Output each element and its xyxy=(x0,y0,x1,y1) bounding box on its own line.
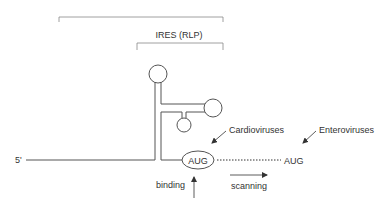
stem-top-right xyxy=(161,82,205,104)
cardioviruses-arrow xyxy=(212,131,226,143)
five-prime-label: 5' xyxy=(15,155,22,165)
outer-bracket xyxy=(59,17,223,22)
ires-bracket xyxy=(137,43,223,50)
stem-small-left xyxy=(161,112,182,160)
ires-diagram: IRES (RLP) 5' AUG AUG scanning binding C… xyxy=(0,0,392,205)
aug-start-label: AUG xyxy=(188,156,208,166)
stem-loop-top xyxy=(149,65,167,83)
cardioviruses-label: Cardioviruses xyxy=(229,125,285,135)
enteroviruses-label: Enteroviruses xyxy=(319,125,375,135)
aug-downstream-label: AUG xyxy=(284,156,304,166)
scanning-label: scanning xyxy=(231,181,267,191)
rna-strand-5prime xyxy=(26,82,155,160)
enteroviruses-arrow xyxy=(303,131,316,143)
binding-label: binding xyxy=(156,180,185,190)
stem-right-lower xyxy=(186,112,205,118)
stem-loop-right xyxy=(204,99,222,117)
stem-loop-small xyxy=(177,118,191,132)
ires-label: IRES (RLP) xyxy=(155,30,202,40)
